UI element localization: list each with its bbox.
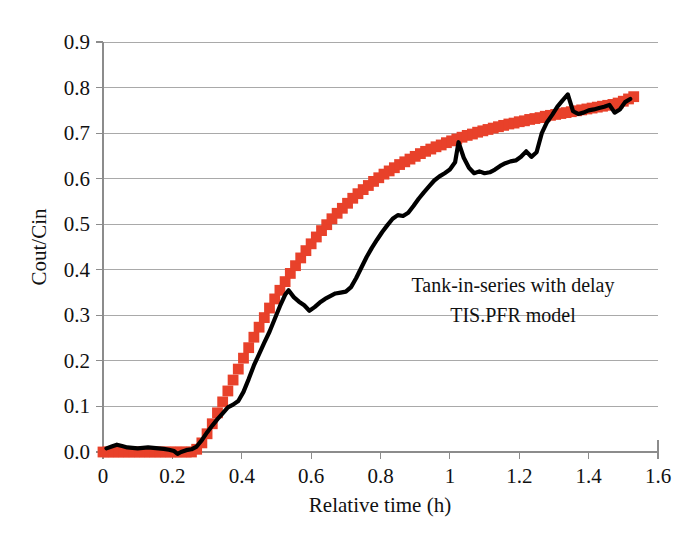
x-tick-label-5: 1	[445, 464, 456, 488]
annotation-line-0: Tank-in-series with delay	[412, 274, 615, 297]
y-axis-title: Cout/Cin	[27, 208, 51, 286]
model-marker	[222, 386, 233, 397]
model-marker	[238, 353, 249, 364]
model-marker	[243, 342, 254, 353]
y-tick-label-2: 0.2	[64, 349, 90, 373]
y-tick-label-0: 0.0	[64, 440, 90, 464]
x-tick-label-4: 0.8	[367, 464, 393, 488]
annotation-line-1: TIS.PFR model	[450, 304, 576, 326]
x-tick-label-6: 1.2	[506, 464, 532, 488]
x-tick-label-3: 0.6	[298, 464, 324, 488]
y-tick-label-5: 0.5	[64, 212, 90, 236]
x-tick-label-8: 1.6	[645, 464, 671, 488]
y-tick-label-8: 0.8	[64, 76, 90, 100]
x-tick-label-0: 0	[98, 464, 109, 488]
x-tick-label-7: 1.4	[576, 464, 603, 488]
model-marker	[248, 332, 259, 343]
y-tick-label-3: 0.3	[64, 303, 90, 327]
y-tick-label-1: 0.1	[64, 394, 90, 418]
x-axis-tick-labels: 00.20.40.60.811.21.41.6	[98, 464, 671, 488]
y-tick-label-9: 0.9	[64, 30, 90, 54]
chart-container: 0.00.10.20.30.40.50.60.70.80.9 00.20.40.…	[0, 0, 694, 534]
tracer-response-chart: 0.00.10.20.30.40.50.60.70.80.9 00.20.40.…	[0, 0, 694, 534]
y-tick-label-7: 0.7	[64, 121, 90, 145]
x-tick-label-1: 0.2	[159, 464, 185, 488]
model-marker	[254, 322, 265, 333]
y-tick-label-4: 0.4	[64, 258, 91, 282]
model-marker	[228, 375, 239, 386]
model-marker	[233, 364, 244, 375]
x-axis-title: Relative time (h)	[309, 493, 451, 517]
y-tick-label-6: 0.6	[64, 167, 90, 191]
model-marker	[259, 312, 270, 323]
model-marker	[217, 396, 228, 407]
x-tick-label-2: 0.4	[229, 464, 256, 488]
